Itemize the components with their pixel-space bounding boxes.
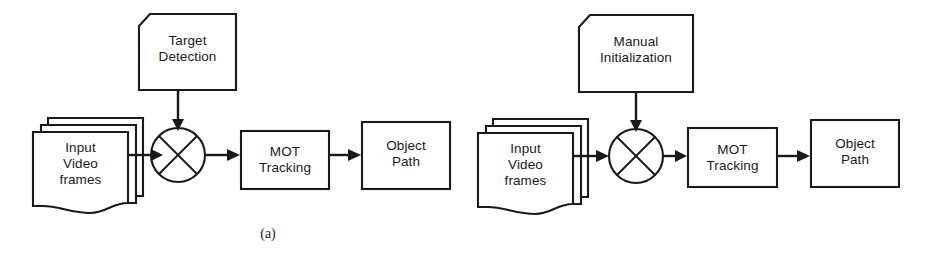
panel-a-caption: (a): [228, 226, 308, 242]
edge-node-to-mot-arrowhead: [675, 150, 687, 162]
object-path-shape: [811, 120, 899, 187]
mot-tracking-shape: [688, 128, 777, 187]
edge-frames-to-node-arrowhead: [596, 150, 609, 162]
figure-root: Input Video frames Target Detection MOT …: [0, 0, 925, 267]
panel-b: Input Video frames Manual Initialization…: [462, 0, 924, 267]
panel-b-graphics: [462, 0, 924, 267]
input-video-frames-sheet-front: [478, 133, 573, 214]
edge-mot-to-output-arrowhead: [797, 150, 810, 162]
mot-tracking-shape: [241, 131, 329, 189]
edge-mot-to-output-arrowhead: [348, 149, 361, 161]
manual-initialization-shape: [579, 15, 693, 92]
target-detection-shape: [139, 14, 236, 90]
panel-a: Input Video frames Target Detection MOT …: [0, 0, 462, 267]
edge-node-to-mot-arrowhead: [227, 149, 240, 161]
input-video-frames-sheet-front: [33, 132, 128, 213]
object-path-shape: [362, 122, 450, 189]
